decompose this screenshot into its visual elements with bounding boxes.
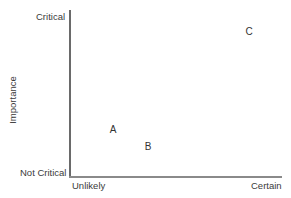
y-axis-line — [69, 10, 71, 178]
x-axis-line — [69, 176, 282, 178]
data-point-c: C — [245, 27, 252, 37]
data-point-a: A — [110, 125, 117, 135]
y-tick-critical: Critical — [36, 12, 65, 22]
y-axis-title: Importance — [7, 76, 18, 124]
x-tick-certain: Certain — [251, 181, 282, 191]
x-tick-unlikely: Unlikely — [72, 181, 105, 191]
y-tick-not-critical: Not Critical — [20, 168, 66, 178]
data-point-b: B — [145, 142, 152, 152]
